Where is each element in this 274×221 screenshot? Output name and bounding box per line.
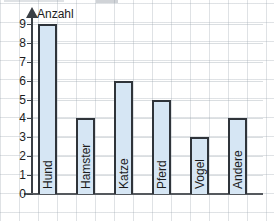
y-tick-mark-3	[27, 137, 33, 138]
y-tick-mark-6	[27, 81, 33, 82]
y-tick-mark-5	[27, 100, 33, 101]
y-tick-label-4: 4	[12, 112, 26, 124]
bar-label-katze: Katze	[118, 158, 130, 189]
y-tick-label-2: 2	[12, 150, 26, 162]
bar-label-andere: Andere	[232, 150, 244, 189]
y-tick-label-8: 8	[12, 37, 26, 49]
gridline-y-9	[33, 24, 263, 25]
bar-label-hund: Hund	[42, 160, 54, 189]
y-tick-mark-7	[27, 62, 33, 63]
gridline-y-5	[33, 100, 263, 101]
y-tick-mark-8	[27, 43, 33, 44]
y-tick-label-9: 9	[12, 18, 26, 30]
bar-label-pferd: Pferd	[156, 160, 168, 189]
y-tick-mark-0	[27, 194, 33, 195]
gridline-y-7	[33, 62, 263, 63]
gridline-y-6	[33, 81, 263, 82]
gridline-y-8	[33, 43, 263, 44]
bar-label-vogel: Vogel	[194, 159, 206, 189]
y-tick-label-3: 3	[12, 131, 26, 143]
y-tick-mark-4	[27, 118, 33, 119]
y-axis-title: Anzahl	[37, 7, 74, 21]
plot-area: Anzahl 0123456789 HundHamsterKatzePferdV…	[0, 0, 274, 221]
bar-chart: Anzahl 0123456789 HundHamsterKatzePferdV…	[0, 0, 274, 221]
y-tick-label-1: 1	[12, 169, 26, 181]
y-tick-mark-2	[27, 156, 33, 157]
y-tick-label-5: 5	[12, 94, 26, 106]
y-tick-mark-9	[27, 24, 33, 25]
bar-label-hamster: Hamster	[80, 144, 92, 189]
y-tick-label-6: 6	[12, 75, 26, 87]
y-tick-mark-1	[27, 175, 33, 176]
y-tick-label-0: 0	[12, 188, 26, 200]
y-tick-label-7: 7	[12, 56, 26, 68]
